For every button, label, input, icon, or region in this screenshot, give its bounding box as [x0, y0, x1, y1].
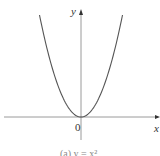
y-axis-label: y: [71, 6, 76, 17]
x-axis-arrow-icon: [155, 115, 160, 119]
x-axis-label: x: [154, 123, 159, 134]
y-axis-arrow-icon: [79, 9, 83, 15]
figure-caption: (a) y = x²: [60, 149, 97, 156]
origin-label: 0: [75, 122, 81, 133]
